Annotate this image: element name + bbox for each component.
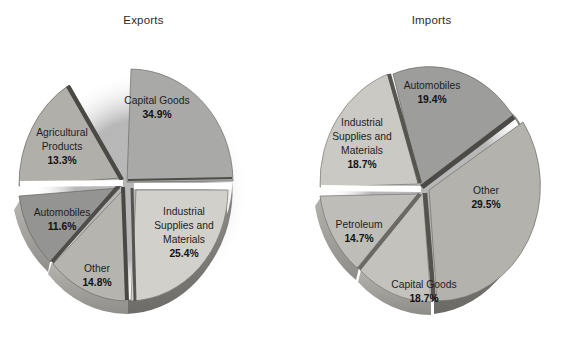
label-other-pct: 29.5% <box>471 199 500 210</box>
label-petroleum-name: Petroleum <box>336 219 383 230</box>
label-industrial-name-1: Industrial <box>163 206 205 217</box>
label-other-name: Other <box>473 185 499 196</box>
pie-svg-imports: Automobiles 19.4% Industrial Supplies an… <box>288 0 575 351</box>
label-industrial-name-2: Supplies and <box>332 131 392 142</box>
chart-panel-imports: Imports <box>288 0 575 351</box>
label-industrial-name-2: Supplies and <box>154 220 214 231</box>
label-automobiles-name: Automobiles <box>34 207 91 218</box>
label-automobiles-name: Automobiles <box>404 80 461 91</box>
label-industrial-name-3: Materials <box>341 145 383 156</box>
label-petroleum-pct: 14.7% <box>344 233 373 244</box>
label-agricultural-name-1: Agricultural <box>36 127 88 138</box>
label-capital-goods-name: Capital Goods <box>124 95 189 106</box>
label-industrial-name-3: Materials <box>163 234 205 245</box>
label-agricultural-name-2: Products <box>42 141 83 152</box>
gap-industrial-petroleum-white <box>321 188 421 189</box>
label-industrial-name-1: Industrial <box>341 117 383 128</box>
label-industrial-pct: 25.4% <box>169 248 198 259</box>
label-capital-goods-pct: 18.7% <box>409 293 438 304</box>
label-other-pct: 14.8% <box>82 277 111 288</box>
label-industrial-pct: 18.7% <box>347 159 376 170</box>
label-agricultural-pct: 13.3% <box>47 155 76 166</box>
label-capital-goods-pct: 34.9% <box>142 109 171 120</box>
label-capital-goods-name: Capital Goods <box>391 279 456 290</box>
label-automobiles-pct: 11.6% <box>48 221 77 232</box>
chart-panel-exports: Exports <box>0 0 287 351</box>
pie-chart-figure: Exports <box>0 0 575 351</box>
label-automobiles-pct: 19.4% <box>417 94 446 105</box>
pie-svg-exports: Capital Goods 34.9% Agricultural Product… <box>0 0 287 351</box>
gap-agricultural-automobiles-white <box>20 183 123 184</box>
slice-capital-goods[interactable] <box>127 69 233 182</box>
slice-capital-goods-top <box>127 69 233 182</box>
label-other-name: Other <box>84 263 110 274</box>
